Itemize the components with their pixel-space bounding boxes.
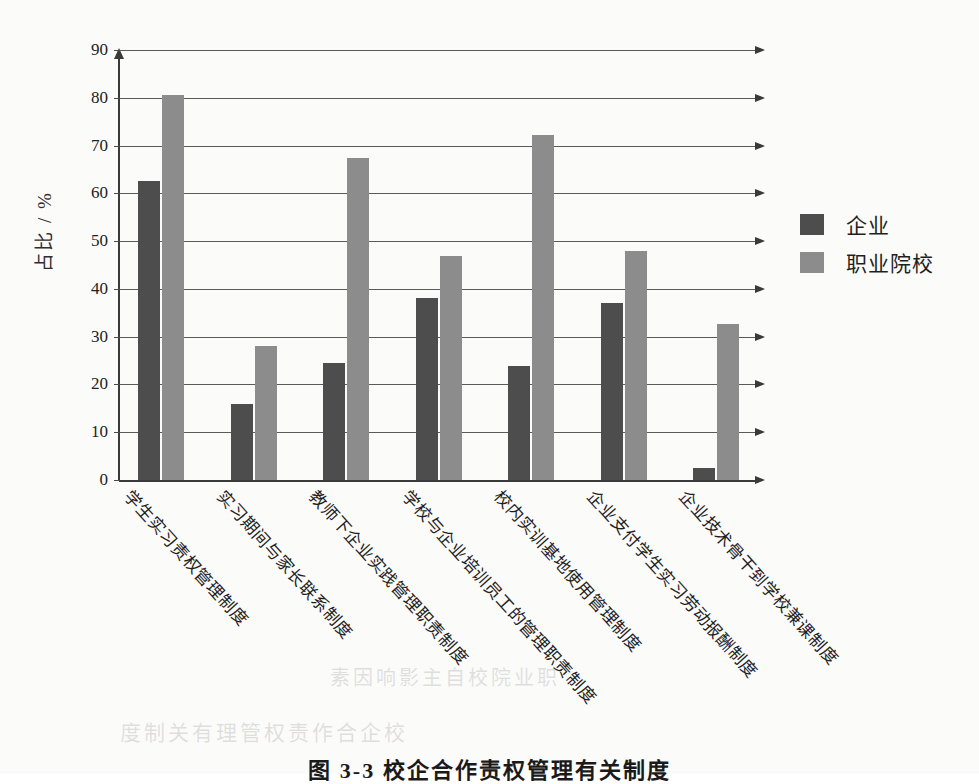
bar-group xyxy=(490,42,583,480)
bar-group xyxy=(213,42,306,480)
y-tick-label: 80 xyxy=(91,88,108,108)
bar-vocational-school[interactable] xyxy=(440,256,462,480)
x-tick-label: 学校与企业培训员工的管理职责制度 xyxy=(397,484,603,709)
bar-group xyxy=(305,42,398,480)
x-tick-label: 企业支付学生实习劳动报酬制度 xyxy=(582,484,765,683)
bar-group xyxy=(398,42,491,480)
bar-enterprise[interactable] xyxy=(416,298,438,480)
y-tick-label: 20 xyxy=(91,374,108,394)
legend-item[interactable]: 职业院校 xyxy=(800,243,970,281)
bar-series-container xyxy=(120,42,768,480)
bar-enterprise[interactable] xyxy=(508,366,530,480)
figure-caption: 图 3-3 校企合作责权管理有关制度 xyxy=(0,752,979,784)
bar-enterprise[interactable] xyxy=(601,303,623,480)
bar-enterprise[interactable] xyxy=(231,404,253,480)
y-tick-label: 10 xyxy=(91,422,108,442)
bar-vocational-school[interactable] xyxy=(717,324,739,480)
x-axis-labels: 学生实习责权管理制度实习期间与家长联系制度教师下企业实践管理职责制度学校与企业培… xyxy=(118,484,818,714)
gridline-0: 0 xyxy=(119,480,756,482)
bar-vocational-school[interactable] xyxy=(532,135,554,480)
legend-label: 职业院校 xyxy=(846,247,934,277)
x-tick-label: 企业技术骨干到学校兼课制度 xyxy=(675,484,846,670)
ghost-bleedthrough-text-2: 度制关有理管权责作合企校 xyxy=(120,716,408,746)
legend-swatch-icon xyxy=(800,214,824,235)
legend-swatch-icon xyxy=(800,252,824,273)
bar-vocational-school[interactable] xyxy=(255,346,277,480)
y-tick-label: 40 xyxy=(91,279,108,299)
y-tick-label: 70 xyxy=(91,136,108,156)
legend-item[interactable]: 企业 xyxy=(800,205,970,243)
plot-area: 0102030405060708090 xyxy=(118,42,768,480)
bar-group xyxy=(120,42,213,480)
y-tick-mark xyxy=(114,480,120,481)
bar-enterprise[interactable] xyxy=(323,363,345,480)
y-tick-label: 0 xyxy=(100,470,109,490)
bar-vocational-school[interactable] xyxy=(347,158,369,481)
bar-group xyxy=(583,42,676,480)
y-tick-label: 60 xyxy=(91,183,108,203)
y-tick-label: 30 xyxy=(91,327,108,347)
y-tick-label: 50 xyxy=(91,231,108,251)
bar-enterprise[interactable] xyxy=(693,468,715,480)
bar-vocational-school[interactable] xyxy=(162,95,184,480)
x-tick-label: 教师下企业实践管理职责制度 xyxy=(305,484,476,670)
y-tick-label: 90 xyxy=(91,40,108,60)
bar-vocational-school[interactable] xyxy=(625,251,647,480)
legend: 企业职业院校 xyxy=(800,205,970,281)
bar-group xyxy=(675,42,768,480)
y-axis-title: 占比 / % xyxy=(29,152,56,312)
bar-enterprise[interactable] xyxy=(138,181,160,480)
legend-label: 企业 xyxy=(846,209,890,239)
